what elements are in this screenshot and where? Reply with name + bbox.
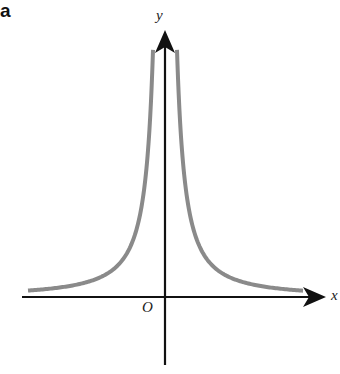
curve-left-branch — [28, 50, 153, 291]
x-axis-label: x — [331, 288, 338, 303]
panel-label: a — [0, 1, 11, 20]
graph-canvas — [0, 0, 340, 374]
curve-right-branch — [177, 50, 303, 291]
origin-label: O — [142, 300, 153, 315]
function-graph: a y x O — [0, 0, 340, 374]
y-axis-label: y — [156, 8, 163, 23]
